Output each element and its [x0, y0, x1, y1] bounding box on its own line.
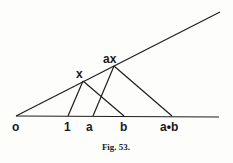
label-1: 1 [64, 120, 71, 134]
line-a-to-ax [93, 66, 114, 116]
baseline [16, 116, 219, 117]
label-b: b [120, 120, 127, 134]
label-ax: ax [103, 52, 117, 66]
label-a: a [86, 120, 93, 134]
geometric-multiplication-diagram: o 1 a b a•b x ax Fig. 53. [0, 0, 233, 163]
label-o: o [12, 120, 19, 134]
label-x: x [76, 67, 83, 81]
line-x-to-b [83, 81, 124, 116]
line-ax-to-ab [114, 66, 172, 116]
upper-ray [16, 12, 220, 116]
figure-caption: Fig. 53. [102, 142, 130, 152]
label-a-times-b: a•b [160, 120, 178, 134]
